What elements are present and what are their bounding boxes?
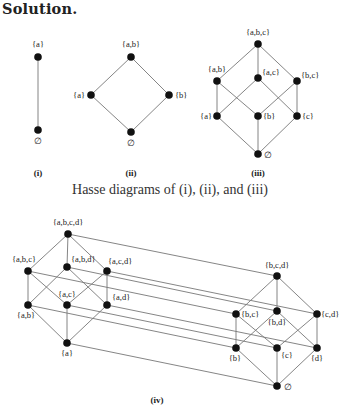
node-b [165, 91, 173, 99]
edge-ab-b [28, 305, 236, 348]
edge-acd-cd [107, 271, 317, 314]
edge-abcd-bcd [68, 234, 277, 276]
edge-ad-a [67, 305, 107, 343]
node-label-abd: {a,b,d} [71, 254, 96, 264]
node-e [34, 126, 42, 134]
edge-abc-ab [217, 44, 258, 81]
node-ac [254, 74, 262, 82]
figure-label-iii: (iii) [251, 168, 265, 178]
node-label-abcd: {a,b,c,d} [53, 217, 84, 227]
edges [217, 44, 297, 154]
hasse-diagram-i: {a}∅(i) [32, 39, 44, 178]
node-ab [24, 301, 32, 309]
edge-a-e [91, 95, 131, 132]
node-abcd [64, 230, 72, 238]
node-label-b: {b} [175, 90, 187, 100]
node-ab [213, 77, 221, 85]
node-label-e: ∅ [127, 138, 135, 148]
node-b [232, 344, 240, 352]
hasse-diagram-iii: {a,b,c}{a,b}{a,c}{b,c}{a}{b}{c}∅(iii) [200, 27, 319, 178]
figure-label-ii: (ii) [126, 168, 137, 178]
node-abd [63, 263, 71, 271]
node-label-c: {c} [281, 350, 293, 360]
node-label-ab: {a,b} [208, 64, 226, 74]
node-label-ad: {a,d} [112, 292, 130, 302]
node-e [127, 128, 135, 136]
node-label-a: {a} [32, 39, 44, 49]
edge-abcd-abc [28, 234, 68, 271]
node-a [34, 53, 42, 61]
node-ab [127, 53, 135, 61]
node-label-abc: {a,b,c} [12, 254, 36, 264]
edge-abcd-abd [67, 234, 68, 267]
node-a [213, 112, 221, 120]
node-label-cd: {c,d} [321, 309, 339, 319]
node-label-e: ∅ [284, 382, 292, 392]
node-label-a: {a} [61, 348, 73, 358]
node-bc [293, 77, 301, 85]
edge-abd-bd [67, 267, 277, 311]
node-label-a: {a} [73, 90, 85, 100]
node-e [254, 150, 262, 158]
node-ac [63, 301, 71, 309]
node-label-bd: {b,d} [268, 317, 287, 327]
node-bcd [273, 272, 281, 280]
node-cd [313, 310, 321, 318]
figure-label-iv: (iv) [151, 395, 164, 405]
solution-figure: Solution. Hasse diagrams of (i), (ii), a… [0, 0, 340, 410]
hasse-diagram-iv: {a,b,c,d}{a,b,c}{a,b,d}{a,c,d}{a,b}{a,c}… [12, 217, 339, 405]
edge-b-e [236, 348, 277, 386]
node-abc [254, 40, 262, 48]
node-ad [103, 301, 111, 309]
node-label-bc: {b,c} [241, 309, 259, 319]
node-a [63, 339, 71, 347]
node-bd [273, 307, 281, 315]
figure-label-i: (i) [34, 168, 43, 178]
node-label-e: ∅ [264, 150, 272, 160]
edge-a-e [67, 343, 277, 386]
node-label-bc: {b,c} [301, 70, 319, 80]
node-d [313, 344, 321, 352]
edge-bcd-cd [277, 276, 317, 314]
edge-b-e [131, 95, 169, 132]
edge-ab-b [131, 57, 169, 95]
node-label-e: ∅ [34, 136, 42, 146]
hasse-diagram-ii: {a,b}{a}{b}∅(ii) [73, 39, 187, 178]
edge-abd-ab [28, 267, 67, 305]
node-c [273, 344, 281, 352]
node-bc [232, 310, 240, 318]
node-label-ac: {a,c} [262, 67, 280, 77]
node-e [273, 382, 281, 390]
node-label-b: {b} [263, 111, 275, 121]
node-abc [24, 267, 32, 275]
edge-a-e [217, 116, 258, 154]
edge-abcd-acd [68, 234, 107, 271]
edges [91, 57, 169, 132]
hasse-diagrams-canvas: {a}∅(i){a,b}{a}{b}∅(ii){a,b,c}{a,b}{a,c}… [0, 0, 340, 410]
node-label-ab: {a,b} [122, 39, 140, 49]
node-label-a: {a} [200, 111, 212, 121]
node-label-c: {c} [302, 111, 314, 121]
node-label-ab: {a,b} [17, 310, 35, 320]
edge-ab-a [91, 57, 131, 95]
node-label-b: {b} [229, 353, 241, 363]
node-label-bcd: {b,c,d} [265, 260, 290, 270]
node-label-acd: {a,c,d} [108, 256, 132, 266]
node-a [87, 91, 95, 99]
node-c [293, 112, 301, 120]
edge-c-e [258, 116, 297, 154]
node-label-abc: {a,b,c} [246, 27, 270, 37]
node-b [254, 112, 262, 120]
node-acd [103, 267, 111, 275]
node-label-ac: {a,c} [58, 289, 76, 299]
node-label-d: {d} [311, 353, 323, 363]
